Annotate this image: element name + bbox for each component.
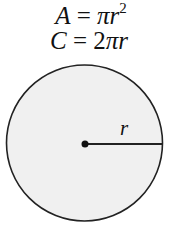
center-point <box>82 141 89 148</box>
radius-label: r <box>120 116 129 140</box>
circle-diagram: r <box>0 0 174 239</box>
